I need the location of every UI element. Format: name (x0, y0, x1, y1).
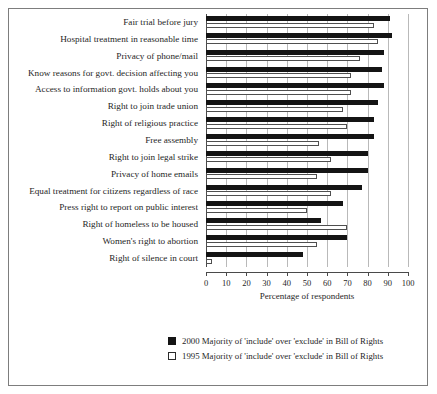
x-tick-50 (307, 272, 308, 276)
bar-2000 (206, 218, 321, 223)
bar-row (206, 132, 408, 149)
category-label: Free assembly (10, 132, 202, 149)
bar-row (206, 14, 408, 31)
x-tick-70 (347, 272, 348, 276)
legend-swatch-filled-icon (168, 337, 176, 345)
category-label: Access to information govt. holds about … (10, 81, 202, 98)
x-tick-80 (368, 272, 369, 276)
bar-1995 (206, 39, 378, 44)
bar-row (206, 166, 408, 183)
x-tick-label: 100 (396, 278, 420, 288)
bar-rows (206, 14, 408, 267)
bar-1995 (206, 73, 351, 78)
bar-row (206, 48, 408, 65)
bar-2000 (206, 151, 368, 156)
bar-1995 (206, 191, 331, 196)
x-tick-90 (388, 272, 389, 276)
gridline-100 (408, 14, 409, 267)
category-label: Right of homeless to be housed (10, 216, 202, 233)
bar-row (206, 233, 408, 250)
bar-1995 (206, 23, 374, 28)
bar-2000 (206, 235, 347, 240)
bar-2000 (206, 134, 374, 139)
category-label: Fair trial before jury (10, 14, 202, 31)
bar-2000 (206, 252, 303, 257)
bar-2000 (206, 168, 368, 173)
bar-row (206, 31, 408, 48)
x-tick-60 (327, 272, 328, 276)
bar-1995 (206, 208, 307, 213)
chart-figure: Fair trial before juryHospital treatment… (0, 0, 437, 394)
x-tick-10 (226, 272, 227, 276)
category-label: Privacy of home emails (10, 166, 202, 183)
bar-2000 (206, 185, 362, 190)
bar-row (206, 183, 408, 200)
category-label: Right of religious practice (10, 115, 202, 132)
bar-2000 (206, 16, 390, 21)
bar-row (206, 98, 408, 115)
bar-2000 (206, 50, 384, 55)
x-tick-20 (246, 272, 247, 276)
bar-1995 (206, 141, 319, 146)
bar-1995 (206, 259, 212, 264)
bar-1995 (206, 157, 331, 162)
bar-2000 (206, 83, 384, 88)
bar-2000 (206, 100, 378, 105)
bar-1995 (206, 56, 360, 61)
bar-1995 (206, 225, 347, 230)
legend-label-2000: 2000 Majority of 'include' over 'exclude… (182, 336, 383, 346)
bar-row (206, 250, 408, 267)
category-label: Know reasons for govt. decision affectin… (10, 65, 202, 82)
category-axis-labels: Fair trial before juryHospital treatment… (10, 14, 202, 267)
legend-item-1995: 1995 Majority of 'include' over 'exclude… (168, 351, 383, 361)
bar-1995 (206, 174, 317, 179)
category-label: Press right to report on public interest (10, 199, 202, 216)
category-label: Privacy of phone/mail (10, 48, 202, 65)
bar-2000 (206, 67, 382, 72)
bar-row (206, 65, 408, 82)
category-label: Women's right to abortion (10, 233, 202, 250)
x-tick-40 (287, 272, 288, 276)
bar-2000 (206, 201, 343, 206)
bar-1995 (206, 107, 343, 112)
bar-2000 (206, 33, 392, 38)
legend-swatch-hollow-icon (168, 352, 176, 360)
plot-area (206, 14, 408, 267)
legend-label-1995: 1995 Majority of 'include' over 'exclude… (182, 351, 383, 361)
category-label: Right to join trade union (10, 98, 202, 115)
category-label: Right of silence in court (10, 250, 202, 267)
x-tick-30 (267, 272, 268, 276)
bar-row (206, 115, 408, 132)
x-axis-title: Percentage of respondents (206, 291, 408, 301)
legend-item-2000: 2000 Majority of 'include' over 'exclude… (168, 336, 383, 346)
bar-row (206, 216, 408, 233)
bar-2000 (206, 117, 374, 122)
chart-legend: 2000 Majority of 'include' over 'exclude… (168, 336, 383, 366)
category-label: Hospital treatment in reasonable time (10, 31, 202, 48)
bar-row (206, 81, 408, 98)
category-label: Right to join legal strike (10, 149, 202, 166)
bar-row (206, 149, 408, 166)
category-label: Equal treatment for citizens regardless … (10, 183, 202, 200)
bar-1995 (206, 242, 317, 247)
x-tick-0 (206, 272, 207, 276)
x-tick-100 (408, 272, 409, 276)
bar-1995 (206, 90, 351, 95)
bar-1995 (206, 124, 347, 129)
bar-row (206, 199, 408, 216)
